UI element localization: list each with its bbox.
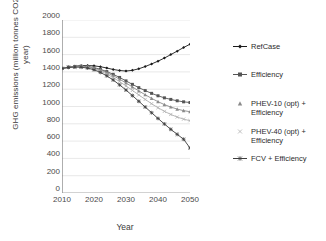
x-tick-label: 2050	[181, 196, 199, 204]
x-tick-label: 2030	[117, 196, 135, 204]
legend-label: RefCase	[251, 42, 280, 51]
legend-label: Efficiency	[251, 70, 283, 79]
legend-item[interactable]: FCV + Efficiency	[232, 154, 307, 163]
plot-svg	[62, 20, 190, 193]
y-tick-label: 1200	[42, 81, 60, 89]
chart-container: GHG emissions (million tonnes CO2e per y…	[0, 0, 326, 241]
legend-label: PHEV-10 (opt) + Efficiency	[251, 99, 306, 117]
y-tick-label: 1400	[42, 64, 60, 72]
x-tick-label: 2010	[53, 196, 71, 204]
y-axis-title-line1: GHG emissions (million tonnes CO2e per	[11, 0, 20, 130]
plot-area	[62, 20, 190, 193]
legend-label: FCV + Efficiency	[251, 154, 307, 163]
legend-marker-triangle-icon	[232, 99, 249, 108]
legend-item[interactable]: PHEV-40 (opt) + Efficiency	[232, 127, 306, 145]
legend-marker-square-icon	[232, 70, 249, 79]
x-axis-tick-labels: 20102020203020402050	[62, 196, 190, 210]
y-tick-label: 200	[47, 168, 60, 176]
legend-marker-cross-icon	[232, 127, 249, 136]
x-axis-title: Year	[55, 222, 195, 232]
y-tick-label: 800	[47, 116, 60, 124]
series-cross	[62, 65, 190, 122]
y-axis-tick-labels: 2000180016001400120010008006004002000	[26, 16, 60, 194]
x-tick-label: 2020	[85, 196, 103, 204]
y-tick-label: 1800	[42, 29, 60, 37]
x-tick-label: 2040	[149, 196, 167, 204]
y-tick-label: 600	[47, 133, 60, 141]
legend-marker-star-icon	[232, 154, 249, 163]
y-tick-label: 400	[47, 150, 60, 158]
y-tick-label: 1000	[42, 99, 60, 107]
y-tick-label: 2000	[42, 12, 60, 20]
y-tick-label: 1600	[42, 47, 60, 55]
legend-marker-diamond-icon	[232, 42, 249, 51]
legend-item[interactable]: Efficiency	[232, 70, 283, 79]
legend-item[interactable]: PHEV-10 (opt) + Efficiency	[232, 99, 306, 117]
y-tick-label: 0	[56, 185, 60, 193]
legend-item[interactable]: RefCase	[232, 42, 280, 51]
legend-label: PHEV-40 (opt) + Efficiency	[251, 127, 306, 145]
